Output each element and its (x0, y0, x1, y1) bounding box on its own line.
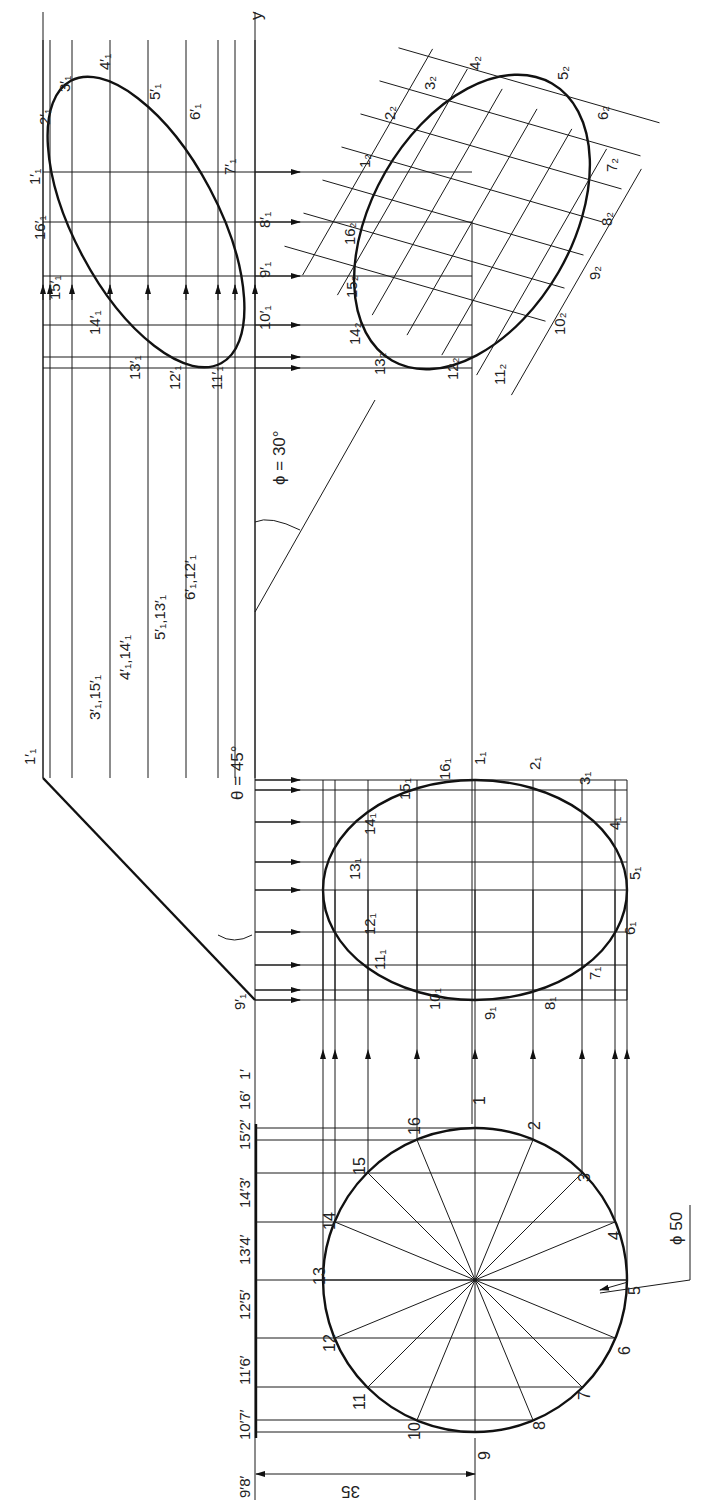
svg-text:12: 12 (321, 1334, 338, 1352)
svg-text:5′₁,13′₁: 5′₁,13′₁ (151, 595, 168, 640)
svg-text:ϕ = 30°: ϕ = 30° (270, 430, 289, 485)
svg-text:4′₁: 4′₁ (96, 54, 113, 70)
svg-text:3: 3 (576, 1173, 593, 1182)
svg-text:5′₁: 5′₁ (146, 84, 163, 100)
svg-text:15₁: 15₁ (396, 778, 413, 800)
svg-text:5₁: 5₁ (626, 867, 643, 880)
svg-text:15′₁: 15′₁ (46, 275, 63, 300)
svg-text:4₂: 4₂ (466, 56, 483, 70)
dimension-offset: 35 (341, 1482, 360, 1501)
svg-text:1₂: 1₂ (356, 154, 373, 168)
svg-text:6: 6 (616, 1346, 633, 1355)
svg-text:16₂: 16₂ (341, 222, 358, 245)
svg-text:16′: 16′ (236, 1090, 253, 1110)
phi-angle: ϕ = 30° (255, 400, 375, 612)
svg-text:9₁: 9₁ (481, 1007, 498, 1020)
svg-text:14: 14 (321, 1212, 338, 1230)
svg-text:11₁: 11₁ (371, 949, 388, 970)
top-view-circle: 35 ϕ 50 (256, 1124, 690, 1501)
svg-text:13′₁: 13′₁ (126, 355, 143, 380)
svg-text:4: 4 (606, 1231, 623, 1240)
svg-text:9: 9 (476, 1451, 493, 1460)
svg-text:9′8′: 9′8′ (236, 1476, 253, 1498)
svg-text:10′₁: 10′₁ (256, 305, 273, 330)
svg-text:3′₁,15′₁: 3′₁,15′₁ (86, 675, 103, 720)
dimension-diameter: ϕ 50 (667, 1212, 686, 1245)
svg-text:11′6′: 11′6′ (236, 1355, 253, 1385)
svg-text:3₁: 3₁ (576, 772, 593, 785)
svg-text:14′3′: 14′3′ (236, 1177, 253, 1208)
svg-text:8: 8 (531, 1421, 548, 1430)
svg-text:14′₁: 14′₁ (86, 310, 103, 335)
svg-text:15: 15 (351, 1157, 368, 1175)
svg-text:3₂: 3₂ (421, 76, 438, 90)
svg-text:4₁: 4₁ (606, 817, 623, 830)
svg-text:2₁: 2₁ (526, 757, 543, 770)
svg-text:16′₁: 16′₁ (31, 215, 48, 240)
svg-text:10₁: 10₁ (426, 988, 443, 1010)
svg-text:6′₁,12′₁: 6′₁,12′₁ (181, 555, 198, 600)
svg-text:11: 11 (351, 1393, 368, 1410)
svg-text:10₂: 10₂ (551, 312, 568, 335)
svg-text:12₂: 12₂ (444, 357, 461, 380)
svg-text:15₂: 15₂ (343, 275, 360, 298)
svg-text:4′₁,14′₁: 4′₁,14′₁ (116, 635, 133, 680)
svg-text:13₂: 13₂ (371, 352, 388, 375)
svg-text:10: 10 (406, 1422, 423, 1440)
svg-text:14₁: 14₁ (361, 813, 378, 835)
svg-text:7: 7 (576, 1391, 593, 1400)
svg-text:1′₁: 1′₁ (26, 169, 43, 185)
svg-text:1₁: 1₁ (471, 752, 488, 765)
svg-text:15′2′: 15′2′ (236, 1119, 253, 1150)
svg-text:7′₁: 7′₁ (221, 159, 238, 175)
svg-text:1: 1 (471, 1096, 488, 1105)
svg-text:8₂: 8₂ (598, 212, 615, 226)
svg-text:11′₁: 11′₁ (208, 367, 225, 390)
first-auxiliary-ellipse: θ = 45° (43, 12, 627, 1000)
svg-text:1′₁: 1′₁ (21, 749, 38, 765)
svg-text:6′₁: 6′₁ (186, 104, 203, 120)
svg-text:2′₁: 2′₁ (36, 109, 53, 125)
svg-text:12′₁: 12′₁ (166, 365, 183, 390)
svg-text:11₂: 11₂ (491, 363, 508, 385)
point-labels: 123456789101112131415169′8′10′7′11′6′12′… (21, 54, 643, 1498)
svg-text:9₂: 9₂ (586, 266, 603, 280)
projection-drawing: y 35 ϕ 50 θ = 45° ϕ = 30° (0, 0, 718, 1505)
svg-text:2₂: 2₂ (381, 106, 398, 120)
theta-label: θ = 45° (228, 745, 247, 800)
svg-text:6₁: 6₁ (621, 922, 638, 935)
svg-text:10′7′: 10′7′ (236, 1409, 253, 1440)
svg-text:13′4′: 13′4′ (236, 1234, 253, 1265)
svg-text:7₁: 7₁ (586, 967, 603, 980)
svg-text:13₁: 13₁ (346, 858, 363, 880)
svg-text:16: 16 (406, 1117, 423, 1135)
svg-text:9′₁: 9′₁ (231, 994, 248, 1010)
svg-text:12′5′: 12′5′ (236, 1289, 253, 1320)
svg-text:13: 13 (311, 1267, 328, 1285)
svg-text:8′₁: 8′₁ (256, 212, 273, 228)
svg-text:2: 2 (526, 1121, 543, 1130)
svg-text:6₂: 6₂ (594, 106, 611, 120)
svg-text:9′₁: 9′₁ (256, 262, 273, 278)
svg-text:y: y (247, 11, 266, 20)
svg-text:3′₁: 3′₁ (56, 76, 73, 92)
svg-text:1′: 1′ (236, 1069, 253, 1080)
svg-text:12₁: 12₁ (361, 913, 378, 935)
svg-text:5₂: 5₂ (554, 66, 571, 80)
second-front-ellipse (7, 47, 472, 397)
final-auxiliary-ellipse (285, 33, 660, 1124)
svg-text:16₁: 16₁ (436, 758, 453, 780)
svg-text:8₁: 8₁ (541, 997, 558, 1010)
svg-text:14₂: 14₂ (346, 322, 363, 345)
svg-text:5: 5 (626, 1286, 643, 1295)
svg-text:7₂: 7₂ (603, 158, 620, 172)
